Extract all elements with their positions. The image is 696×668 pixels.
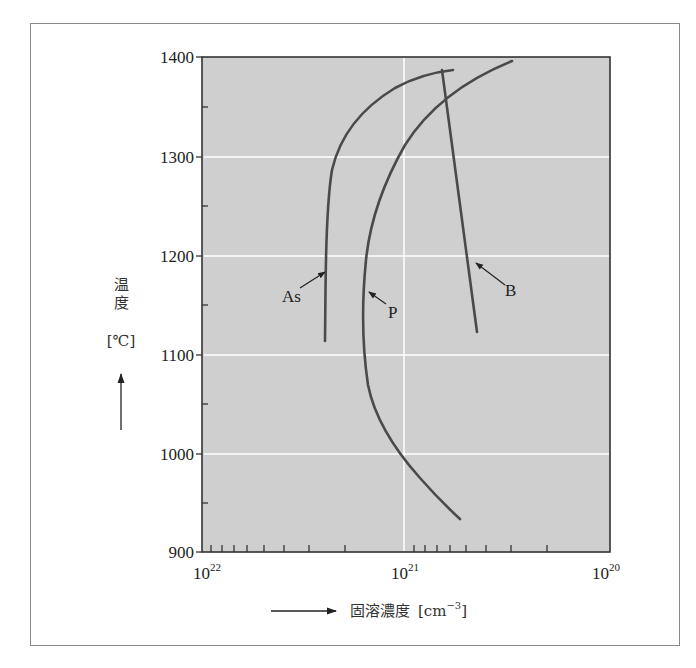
x-tick-label-1e21: 1021 <box>391 561 419 583</box>
y-tick-labels: 1400 1300 1200 1100 1000 900 <box>160 48 194 562</box>
svg-text:[℃]: [℃] <box>107 332 135 350</box>
plot-area <box>202 57 610 552</box>
y-tick-label: 1200 <box>160 247 194 266</box>
chart-svg: 1400 1300 1200 1100 1000 900 1022 1021 1… <box>0 0 696 668</box>
svg-text:固溶濃度: 固溶濃度 <box>350 602 410 620</box>
label-p: P <box>388 303 397 322</box>
svg-text:[cm−3]: [cm−3] <box>418 600 467 620</box>
label-as: As <box>282 287 301 306</box>
y-tick-label: 1300 <box>160 148 194 167</box>
x-tick-label-1e20: 1020 <box>592 561 621 583</box>
y-axis-label: 温 度 [℃] <box>107 276 135 430</box>
y-tick-label: 900 <box>169 543 195 562</box>
x-tick-label-1e22: 1022 <box>193 561 221 583</box>
label-b: B <box>505 281 516 300</box>
svg-text:温: 温 <box>114 276 129 294</box>
y-tick-label: 1400 <box>160 48 194 67</box>
x-axis-label: 固溶濃度 [cm−3] <box>271 600 467 620</box>
svg-text:度: 度 <box>114 294 129 312</box>
y-tick-label: 1000 <box>160 445 194 464</box>
x-tick-labels: 1022 1021 1020 <box>193 561 621 583</box>
y-tick-label: 1100 <box>161 346 194 365</box>
